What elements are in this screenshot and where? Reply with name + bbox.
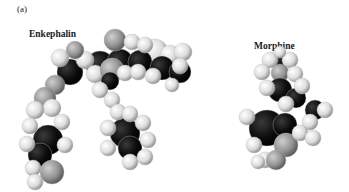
hydrogen-atom xyxy=(145,68,161,84)
oxygen-atom xyxy=(40,160,64,184)
hydrogen-atom xyxy=(54,114,70,130)
hydrogen-atom xyxy=(27,174,43,190)
enkephalin-model xyxy=(19,29,192,190)
hydrogen-atom xyxy=(51,49,69,67)
hydrogen-atom xyxy=(259,80,275,96)
hydrogen-atom xyxy=(251,155,265,169)
hydrogen-atom xyxy=(25,160,41,176)
hydrogen-atom xyxy=(274,46,286,58)
hydrogen-atom xyxy=(19,136,35,152)
hydrogen-atom xyxy=(317,102,333,118)
hydrogen-atom xyxy=(130,64,146,80)
hydrogen-atom xyxy=(100,120,116,136)
hydrogen-atom xyxy=(246,137,262,153)
hydrogen-atom xyxy=(57,137,73,153)
molecular-models xyxy=(0,0,349,192)
hydrogen-atom xyxy=(305,130,321,146)
hydrogen-atom xyxy=(165,78,179,92)
hydrogen-atom xyxy=(22,118,38,134)
hydrogen-atom xyxy=(122,154,138,170)
hydrogen-atom xyxy=(100,140,116,156)
morphine-model xyxy=(239,46,333,170)
hydrogen-atom xyxy=(239,109,255,125)
hydrogen-atom xyxy=(140,132,156,148)
oxygen-atom xyxy=(104,29,126,51)
hydrogen-atom xyxy=(278,96,294,112)
hydrogen-atom xyxy=(137,149,153,165)
hydrogen-atom xyxy=(122,106,138,122)
hydrogen-atom xyxy=(294,78,310,94)
hydrogen-atom xyxy=(254,64,270,80)
hydrogen-atom xyxy=(43,99,61,117)
hydrogen-atom xyxy=(174,43,192,61)
oxygen-atom xyxy=(266,150,286,170)
hydrogen-atom xyxy=(137,37,153,53)
hydrogen-atom xyxy=(26,101,44,119)
hydrogen-atom xyxy=(172,58,188,74)
